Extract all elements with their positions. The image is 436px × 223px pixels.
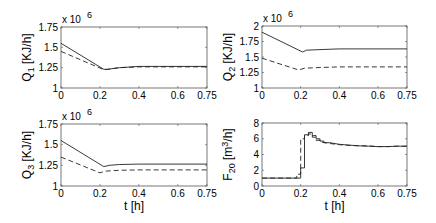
series-dashed	[262, 134, 407, 178]
exponent-value: 6	[288, 9, 293, 19]
series-solid	[262, 132, 407, 178]
y-axis-label: Q2 [KJ/h]	[221, 33, 237, 81]
exponent-label: x 10	[62, 14, 81, 25]
axes-box	[262, 123, 407, 186]
y-tick-label: 1.5	[245, 52, 259, 63]
x-tick-label: 0.4	[332, 90, 346, 101]
axes-box	[61, 124, 207, 186]
x-tick-label: 0.75	[197, 188, 217, 199]
series-solid	[61, 141, 207, 167]
y-tick-label: 1.75	[39, 22, 59, 33]
axes-box	[61, 27, 207, 88]
x-tick-label: 0.6	[171, 90, 185, 101]
y-tick-label: 1.5	[44, 42, 58, 53]
y-axis-label: F20 [m3/h]	[220, 128, 237, 180]
y-tick-label: 1	[253, 83, 259, 94]
panel-f20: 00.20.40.60.7502468F20 [m3/h]t [h]	[220, 118, 417, 214]
y-tick-label: 4	[253, 149, 259, 160]
exponent-label: x 10	[62, 111, 81, 122]
y-tick-label: 1	[52, 181, 58, 192]
x-tick-label: 0	[259, 188, 265, 199]
y-axis-label: Q3 [KJ/h]	[20, 131, 36, 179]
x-axis-label: t [h]	[324, 199, 344, 213]
x-tick-label: 0.6	[371, 188, 385, 199]
y-tick-label: 1.25	[39, 160, 59, 171]
panel-q3: 00.20.40.60.7511.251.51.75x 106Q3 [KJ/h]…	[20, 107, 217, 213]
x-tick-label: 0.6	[171, 188, 185, 199]
exponent-value: 6	[87, 107, 92, 117]
y-tick-label: 8	[253, 118, 259, 129]
x-tick-label: 0.2	[93, 90, 107, 101]
y-tick-label: 1.75	[240, 36, 260, 47]
x-axis-label: t [h]	[124, 199, 144, 213]
y-tick-label: 2	[253, 165, 259, 176]
y-tick-label: 1.5	[44, 139, 58, 150]
y-tick-label: 2	[253, 21, 259, 32]
y-tick-label: 1	[52, 83, 58, 94]
panel-q2: 00.20.40.60.7511.251.51.752x 106Q2 [KJ/h…	[221, 9, 417, 101]
x-tick-label: 0	[58, 90, 64, 101]
y-tick-label: 1.25	[240, 67, 260, 78]
x-tick-label: 0.2	[93, 188, 107, 199]
y-tick-label: 1.25	[39, 62, 59, 73]
x-tick-label: 0.4	[132, 188, 146, 199]
x-tick-label: 0.4	[332, 188, 346, 199]
x-tick-label: 0.75	[197, 90, 217, 101]
x-tick-label: 0.75	[397, 188, 417, 199]
y-axis-label: Q1 [KJ/h]	[20, 33, 36, 81]
exponent-label: x 10	[263, 13, 282, 24]
x-tick-label: 0	[259, 90, 265, 101]
exponent-value: 6	[87, 10, 92, 20]
series-solid	[61, 43, 207, 69]
x-tick-label: 0.2	[294, 90, 308, 101]
axes-box	[262, 26, 407, 88]
x-tick-label: 0.2	[294, 188, 308, 199]
series-dashed	[61, 51, 207, 69]
x-tick-label: 0.4	[132, 90, 146, 101]
series-dashed	[262, 58, 407, 70]
x-tick-label: 0.6	[371, 90, 385, 101]
panel-q1: 00.20.40.60.7511.251.51.75x 106Q1 [KJ/h]	[20, 10, 217, 101]
y-tick-label: 0	[253, 181, 259, 192]
y-tick-label: 1.75	[39, 119, 59, 130]
y-tick-label: 6	[253, 133, 259, 144]
figure: 00.20.40.60.7511.251.51.75x 106Q1 [KJ/h]…	[0, 0, 436, 223]
x-tick-label: 0	[58, 188, 64, 199]
series-dashed	[61, 157, 207, 173]
series-solid	[262, 32, 407, 52]
x-tick-label: 0.75	[397, 90, 417, 101]
